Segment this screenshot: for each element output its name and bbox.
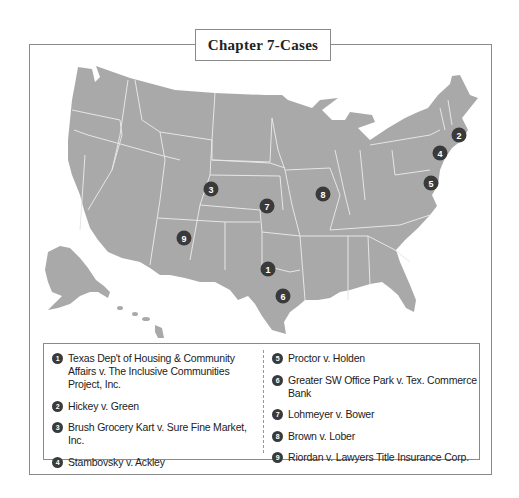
case-marker-8[interactable]: 8 (316, 187, 331, 202)
case-marker-4[interactable]: 4 (433, 146, 448, 161)
legend-item: 6 Greater SW Office Park v. Tex. Commerc… (272, 374, 477, 400)
case-marker-1[interactable]: 1 (261, 262, 276, 277)
case-name: Proctor v. Holden (288, 352, 365, 365)
case-name: Lohmeyer v. Bower (288, 408, 374, 421)
number-badge-icon: 5 (272, 353, 283, 364)
case-name: Texas Dep't of Housing & Community Affai… (68, 352, 257, 391)
number-badge-icon: 8 (272, 431, 283, 442)
chapter-title: Chapter 7-Cases (195, 29, 331, 61)
number-badge-icon: 3 (52, 422, 63, 433)
case-name: Hickey v. Green (68, 400, 139, 413)
case-marker-7[interactable]: 7 (260, 199, 275, 214)
legend-item: 4 Stambovsky v. Ackley (52, 456, 257, 469)
hawaii-shape (117, 306, 164, 338)
legend-item: 3 Brush Grocery Kart v. Sure Fine Market… (52, 421, 257, 447)
legend-item: 9 Riordan v. Lawyers Title Insurance Cor… (272, 451, 477, 464)
case-marker-9[interactable]: 9 (177, 231, 192, 246)
case-name: Stambovsky v. Ackley (68, 456, 165, 469)
case-marker-5[interactable]: 5 (424, 176, 439, 191)
legend-item: 7 Lohmeyer v. Bower (272, 408, 477, 421)
case-name: Brush Grocery Kart v. Sure Fine Market, … (68, 421, 257, 447)
number-badge-icon: 9 (272, 452, 283, 463)
number-badge-icon: 7 (272, 409, 283, 420)
case-name: Greater SW Office Park v. Tex. Commerce … (288, 374, 477, 400)
case-name: Riordan v. Lawyers Title Insurance Corp. (288, 451, 469, 464)
legend-item: 5 Proctor v. Holden (272, 352, 477, 365)
case-marker-6[interactable]: 6 (276, 289, 291, 304)
legend-item: 2 Hickey v. Green (52, 400, 257, 413)
legend-item: 1 Texas Dep't of Housing & Community Aff… (52, 352, 257, 391)
case-legend: 1 Texas Dep't of Housing & Community Aff… (43, 343, 480, 460)
case-name: Brown v. Lober (288, 430, 355, 443)
alaska-shape (45, 246, 110, 310)
contiguous-us-shape (68, 66, 478, 334)
number-badge-icon: 1 (52, 353, 63, 364)
case-marker-2[interactable]: 2 (452, 128, 467, 143)
number-badge-icon: 2 (52, 401, 63, 412)
legend-column-left: 1 Texas Dep't of Housing & Community Aff… (52, 352, 257, 477)
case-marker-3[interactable]: 3 (204, 182, 219, 197)
number-badge-icon: 4 (52, 457, 63, 468)
number-badge-icon: 6 (272, 375, 283, 386)
legend-column-right: 5 Proctor v. Holden 6 Greater SW Office … (272, 352, 477, 473)
legend-divider (263, 350, 264, 453)
legend-item: 8 Brown v. Lober (272, 430, 477, 443)
